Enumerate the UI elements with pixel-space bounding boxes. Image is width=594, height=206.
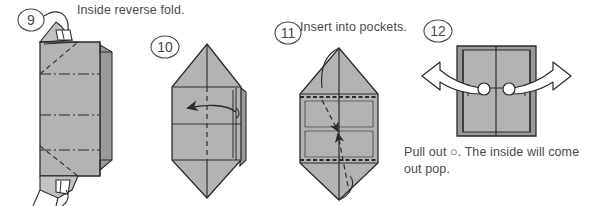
- pull-dot-right: [503, 83, 515, 95]
- step-12-note-line-1: Pull out ○. The inside will come: [404, 144, 594, 161]
- svg-text:11: 11: [281, 25, 296, 41]
- step-11-number-badge: 11: [275, 22, 301, 44]
- svg-text:9: 9: [27, 12, 35, 28]
- step-12-note: Pull out ○. The inside will come out pop…: [404, 144, 594, 178]
- step-9-label: Inside reverse fold.: [77, 3, 185, 17]
- step-10-figure: [172, 44, 246, 198]
- step-12-number-badge: 12: [424, 20, 452, 42]
- svg-text:10: 10: [157, 39, 173, 55]
- step-12-note-line-2: out pop.: [404, 161, 594, 178]
- step-10-number-badge: 10: [151, 36, 179, 58]
- step-11-figure: [300, 48, 378, 200]
- step-12-figure: [422, 46, 571, 136]
- origami-diagram-sheet: Inside reverse fold. Insert into pockets…: [0, 0, 594, 206]
- step-9-number-badge: 9: [18, 9, 44, 31]
- step-9-figure: [33, 12, 112, 206]
- pull-dot-left: [478, 83, 490, 95]
- step-11-label: Insert into pockets.: [300, 20, 407, 34]
- svg-text:12: 12: [430, 23, 446, 39]
